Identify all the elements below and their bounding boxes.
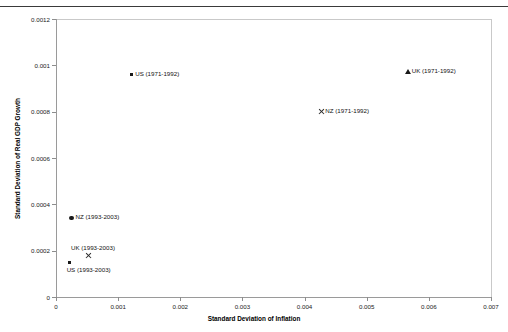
x-axis-tick [242,297,243,301]
x-axis-tick [429,297,430,301]
data-point-label: NZ (1971-1992) [325,107,369,114]
x-axis-tick-label: 0.007 [471,303,508,310]
y-axis-tick [52,204,56,205]
square-marker-icon [68,261,71,264]
top-divider-rule [0,6,508,7]
data-point-label: NZ (1993-2003) [76,213,120,220]
y-axis-tick [52,65,56,66]
x-axis-tick [180,297,181,301]
x-axis-tick-label: 0.003 [222,303,262,310]
x-axis-tick-label: 0.001 [98,303,138,310]
x-axis-tick [491,297,492,301]
data-point-label: US (1993-2003) [67,266,111,273]
x-axis-tick [118,297,119,301]
x-axis-tick-label: 0.002 [160,303,200,310]
y-axis-tick [52,112,56,113]
x-axis-tick-label: 0.005 [347,303,387,310]
y-axis-tick-label: 0 [4,294,50,301]
x-axis-title: Standard Deviation of Inflation [0,315,508,322]
cross-marker-icon [85,252,92,259]
data-point-label: US (1971-1992) [135,70,179,77]
scatter-chart-figure: Standard Deviation of Real GDP Growth 00… [0,0,508,332]
plot-frame-top [57,19,492,20]
y-axis-tick-label: 0.0004 [4,201,50,208]
y-axis-tick [52,158,56,159]
plot-frame-right [491,19,492,297]
x-axis-tick-label: 0 [36,303,76,310]
x-axis-tick-label: 0.006 [409,303,449,310]
y-axis-tick-label: 0.0006 [4,155,50,162]
y-axis-tick-label: 0.0012 [4,16,50,23]
y-axis-tick-label: 0.0002 [4,247,50,254]
y-axis-tick [52,19,56,20]
cross-marker-icon [318,108,325,115]
square-marker-icon [130,73,133,76]
x-axis-tick [56,297,57,301]
data-point-label: UK (1971-1992) [412,67,456,74]
plot-area [56,19,492,298]
x-axis-tick [367,297,368,301]
triangle-marker-icon [405,69,411,74]
x-axis-tick-label: 0.004 [285,303,325,310]
y-axis-tick [52,251,56,252]
y-axis-tick-label: 0.0008 [4,108,50,115]
x-axis-tick [305,297,306,301]
data-point-label: UK (1993-2003) [71,244,115,251]
y-axis-tick-label: 0.001 [4,62,50,69]
